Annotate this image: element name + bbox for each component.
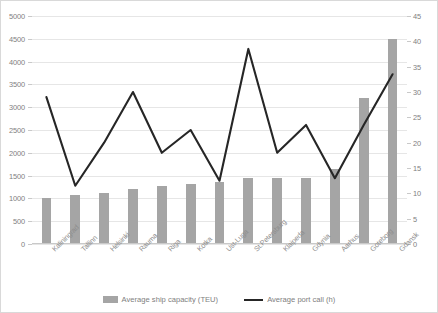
x-tick-label: Kaliningrad [50,247,56,253]
y2-tick-mark [407,16,411,17]
y2-tick-mark [407,41,411,42]
y-tick-label: 0 [21,240,25,249]
legend-label: Average port call (h) [267,295,335,304]
x-tick-label: Ust-Luga [224,247,230,253]
legend-item[interactable]: Average port call (h) [244,295,335,304]
y2-tick-label: 5 [413,214,417,223]
x-tick-label: Aarhus [339,247,345,253]
y2-tick-label: 45 [413,12,421,21]
y-tick-label: 3500 [9,80,25,89]
y-tick-mark [28,244,32,245]
line-swatch-icon [244,299,263,301]
y-tick-label: 3000 [9,103,25,112]
y-tick-label: 2000 [9,148,25,157]
x-tick-label: Tallinn [79,247,85,253]
y2-tick-mark [407,67,411,68]
y2-tick-label: 15 [413,164,421,173]
chart-container: 0500100015002000250030003500400045005000… [0,0,438,313]
y2-tick-label: 10 [413,189,421,198]
y-tick-label: 1000 [9,194,25,203]
y2-tick-label: 35 [413,62,421,71]
x-tick-label: Goteborg [368,247,374,253]
y-tick-label: 4500 [9,34,25,43]
y2-tick-mark [407,219,411,220]
line-path [46,49,392,186]
y2-tick-label: 40 [413,37,421,46]
y-tick-label: 1500 [9,171,25,180]
chart-legend: Average ship capacity (TEU)Average port … [1,295,437,304]
y-tick-label: 4000 [9,57,25,66]
y2-tick-label: 25 [413,113,421,122]
y2-tick-mark [407,193,411,194]
plot-area [32,16,407,244]
bar-swatch-icon [103,296,118,303]
y2-tick-mark [407,117,411,118]
y2-tick-label: 30 [413,88,421,97]
x-tick-label: Gdynia [310,247,316,253]
x-tick-label: Riga [166,247,172,253]
x-tick-label: Helsinki [108,247,114,253]
y-tick-label: 5000 [9,12,25,21]
x-tick-label: Kotka [195,247,201,253]
x-tick-label: St.Petersburg [252,247,258,253]
y2-tick-mark [407,168,411,169]
y-tick-label: 2500 [9,126,25,135]
legend-item[interactable]: Average ship capacity (TEU) [103,295,219,304]
line-series-average-port-call [32,16,407,244]
y2-tick-mark [407,143,411,144]
x-tick-label: Klaipeda [281,247,287,253]
x-tick-label: Rauma [137,247,143,253]
y2-tick-mark [407,92,411,93]
y-tick-label: 500 [13,217,25,226]
y2-tick-label: 20 [413,138,421,147]
x-tick-label: Gdansk [397,247,403,253]
legend-label: Average ship capacity (TEU) [122,295,219,304]
